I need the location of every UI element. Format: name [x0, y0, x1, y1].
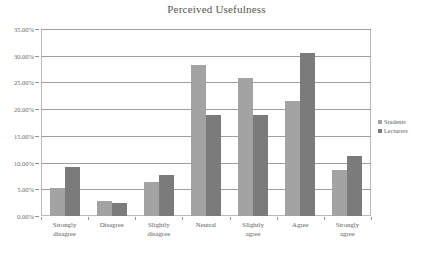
bar-students-strongly-agree	[332, 170, 347, 216]
bar-group	[41, 29, 88, 216]
x-tick-label: Neutral	[182, 221, 229, 230]
x-tick-label-line: disagree	[41, 230, 88, 239]
x-tick-label-line: Agree	[277, 221, 324, 230]
bar-students-slightly-agree	[238, 78, 253, 216]
y-tick-label: 15.00%	[14, 132, 34, 139]
y-tick-label: 20.00%	[14, 106, 34, 113]
y-tick-label: 35.00%	[14, 26, 34, 33]
bar-students-slightly-disagree	[144, 182, 159, 216]
x-tick-label: Disagree	[88, 221, 135, 230]
bar-students-agree	[285, 101, 300, 216]
y-tick-mark	[35, 29, 39, 30]
x-tick-label: Stronglydisagree	[41, 221, 88, 238]
bars-layer	[41, 29, 371, 216]
chart-legend: StudentsLecturers	[378, 118, 433, 136]
x-tick-mark	[88, 217, 89, 220]
bar-lecturers-strongly-agree	[347, 156, 362, 216]
chart-figure: Perceived Usefulness 0.00%5.00%10.00%15.…	[0, 0, 433, 254]
bar-group	[230, 29, 277, 216]
y-tick-mark	[35, 136, 39, 137]
x-tick-label: Slightlyagree	[230, 221, 277, 238]
legend-item-lecturers[interactable]: Lecturers	[378, 127, 433, 134]
y-tick-label: 10.00%	[14, 159, 34, 166]
x-tick-label-line: agree	[230, 230, 277, 239]
bar-group	[277, 29, 324, 216]
x-tick-mark	[41, 217, 42, 220]
x-tick-mark	[182, 217, 183, 220]
bar-students-disagree	[97, 201, 112, 216]
plot-area	[41, 29, 371, 216]
x-tick-mark	[230, 217, 231, 220]
x-tick-mark	[324, 217, 325, 220]
legend-swatch-icon	[378, 129, 382, 133]
bar-lecturers-neutral	[206, 115, 221, 217]
bar-lecturers-agree	[300, 53, 315, 216]
x-tick-mark	[277, 217, 278, 220]
y-tick-mark	[35, 56, 39, 57]
bar-students-neutral	[191, 65, 206, 216]
bar-group	[135, 29, 182, 216]
y-tick-label: 30.00%	[14, 52, 34, 59]
legend-item-students[interactable]: Students	[378, 118, 433, 125]
bar-lecturers-disagree	[112, 203, 127, 216]
x-tick-mark	[135, 217, 136, 220]
bar-group	[324, 29, 371, 216]
x-tick-mark	[371, 217, 372, 220]
x-tick-label-line: Disagree	[88, 221, 135, 230]
bar-lecturers-strongly-disagree	[65, 167, 80, 216]
y-tick-mark	[35, 216, 39, 217]
y-tick-label: 0.00%	[17, 213, 34, 220]
x-tick-label-line: Slightly	[230, 221, 277, 230]
legend-item-label: Students	[384, 118, 406, 125]
x-tick-label: Stronglyagree	[324, 221, 371, 238]
x-tick-label-line: agree	[324, 230, 371, 239]
bar-lecturers-slightly-agree	[253, 115, 268, 217]
y-tick-mark	[35, 189, 39, 190]
x-tick-label-line: Strongly	[324, 221, 371, 230]
y-tick-mark	[35, 109, 39, 110]
x-tick-label-line: disagree	[135, 230, 182, 239]
x-tick-label: Slightlydisagree	[135, 221, 182, 238]
bar-group	[182, 29, 229, 216]
chart-title: Perceived Usefulness	[0, 3, 433, 15]
y-tick-mark	[35, 163, 39, 164]
x-tick-label-line: Slightly	[135, 221, 182, 230]
bar-students-strongly-disagree	[50, 188, 65, 216]
y-tick-label: 5.00%	[17, 186, 34, 193]
y-tick-label: 25.00%	[14, 79, 34, 86]
bar-group	[88, 29, 135, 216]
x-tick-label-line: Strongly	[41, 221, 88, 230]
legend-swatch-icon	[378, 120, 382, 124]
y-axis: 0.00%5.00%10.00%15.00%20.00%25.00%30.00%…	[0, 29, 39, 216]
x-tick-label-line: Neutral	[182, 221, 229, 230]
y-tick-mark	[35, 82, 39, 83]
bar-lecturers-slightly-disagree	[159, 175, 174, 216]
x-tick-label: Agree	[277, 221, 324, 230]
x-axis: StronglydisagreeDisagreeSlightlydisagree…	[41, 217, 371, 251]
legend-item-label: Lecturers	[384, 127, 408, 134]
